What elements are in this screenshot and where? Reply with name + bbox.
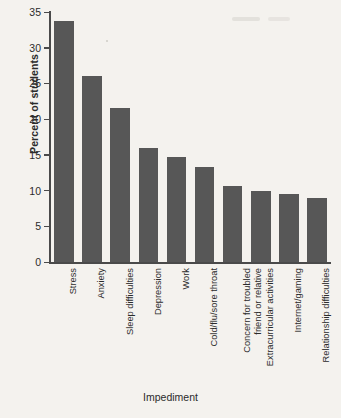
- scan-speckle: [232, 17, 260, 21]
- y-tick-label: 15: [0, 149, 41, 161]
- bar: [167, 157, 187, 262]
- x-category-label-line: Cold/flu/sore throat: [209, 268, 220, 347]
- x-category-label: Sleep difficulties: [125, 268, 136, 335]
- y-tick-label: 5: [0, 220, 41, 232]
- scan-speckle: [106, 40, 108, 42]
- x-category-label-line: Internet/gaming: [293, 268, 304, 333]
- x-category-label-line: Relationship difficulties: [321, 268, 332, 362]
- bar: [110, 108, 130, 262]
- bar: [223, 186, 243, 262]
- bar: [139, 148, 159, 262]
- x-category-label: Work: [181, 268, 192, 290]
- y-tick-label: 0: [0, 256, 41, 268]
- scan-speckle: [268, 17, 290, 21]
- y-tick-label: 30: [0, 42, 41, 54]
- bars-container: [50, 12, 331, 262]
- x-category-label: Concern for troubledfriend or relative: [242, 268, 263, 353]
- bar: [54, 21, 74, 262]
- x-category-label-line: Anxiety: [96, 268, 107, 299]
- bar: [307, 198, 327, 262]
- x-axis-title: Impediment: [0, 391, 341, 403]
- y-tick-label: 20: [0, 113, 41, 125]
- bar: [279, 194, 299, 262]
- bar-chart: Percent of students 05101520253035 Stres…: [0, 0, 341, 418]
- x-category-label: Extracurricular activities: [265, 268, 276, 366]
- x-category-label: Stress: [68, 268, 79, 294]
- x-category-label-line: Sleep difficulties: [125, 268, 136, 335]
- bar: [195, 167, 215, 262]
- x-category-label: Relationship difficulties: [321, 268, 332, 362]
- x-category-label-line: Depression: [153, 268, 164, 315]
- bar: [82, 76, 102, 262]
- y-tick-label: 35: [0, 6, 41, 18]
- y-tick-label: 10: [0, 185, 41, 197]
- x-category-label: Depression: [153, 268, 164, 315]
- x-category-label: Cold/flu/sore throat: [209, 268, 220, 347]
- x-category-label-line: Concern for troubled: [242, 268, 253, 353]
- x-axis-line: [49, 262, 331, 264]
- x-category-label: Internet/gaming: [293, 268, 304, 333]
- x-category-label-line: friend or relative: [253, 268, 264, 353]
- x-category-label-line: Work: [181, 268, 192, 290]
- y-tick-label: 25: [0, 77, 41, 89]
- x-category-label-line: Stress: [68, 268, 79, 294]
- bar: [251, 191, 271, 262]
- x-category-label-line: Extracurricular activities: [265, 268, 276, 366]
- x-category-label: Anxiety: [96, 268, 107, 299]
